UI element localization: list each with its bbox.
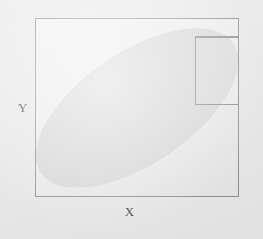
inset-rectangle-upper-right bbox=[195, 36, 239, 105]
y-axis-label: Y bbox=[18, 101, 28, 114]
plot-frame-rectangle bbox=[35, 18, 239, 197]
x-axis-label: X bbox=[0, 205, 261, 218]
figure-canvas: Y X bbox=[0, 0, 263, 239]
